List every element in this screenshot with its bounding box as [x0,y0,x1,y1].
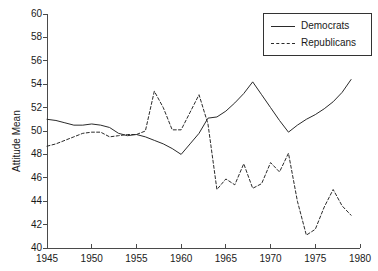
y-tick-label: 42 [20,220,42,230]
y-tick-label: 56 [20,56,42,66]
x-tick-label: 1965 [206,254,246,264]
y-tick-label: 40 [20,243,42,253]
x-tick-label: 1960 [161,254,201,264]
x-tick-label: 1975 [295,254,335,264]
y-tick-label: 46 [20,173,42,183]
chart-container: Attitude Mean 4042444648505254565860 194… [0,0,378,271]
y-tick-label: 58 [20,32,42,42]
y-tick-label: 50 [20,126,42,136]
legend-label-democrats: Democrats [301,21,349,31]
x-tick-label: 1970 [251,254,291,264]
legend-item-republicans: Republicans [271,36,356,50]
chart-legend: Democrats Republicans [263,13,372,56]
y-tick-label: 54 [20,79,42,89]
x-tick-label: 1950 [72,254,112,264]
y-tick-label: 52 [20,103,42,113]
y-tick-label: 48 [20,149,42,159]
data-series-group [47,80,351,236]
x-tick-label: 1980 [340,254,378,264]
y-tick-label: 44 [20,196,42,206]
x-tick-label: 1945 [27,254,67,264]
series-line-democrats [47,80,351,155]
legend-line-dashed-icon [271,38,295,48]
y-axis-title: Attitude Mean [11,110,22,172]
legend-item-democrats: Democrats [271,19,349,33]
y-tick-label: 60 [20,9,42,19]
series-line-republicans [47,91,351,235]
x-tick-label: 1955 [116,254,156,264]
legend-label-republicans: Republicans [301,38,356,48]
legend-line-solid-icon [271,21,295,31]
